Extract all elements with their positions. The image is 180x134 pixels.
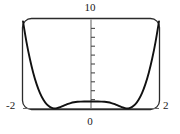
y-max-label: 10	[0, 2, 180, 13]
x-max-label: 2	[163, 100, 169, 111]
x-min-label: -2	[6, 100, 15, 111]
x-zero-label: 0	[0, 116, 180, 127]
plot-canvas	[0, 0, 180, 134]
plot-figure: 10 -2 2 0	[0, 0, 180, 134]
y-axis-ticks	[91, 28, 95, 99]
